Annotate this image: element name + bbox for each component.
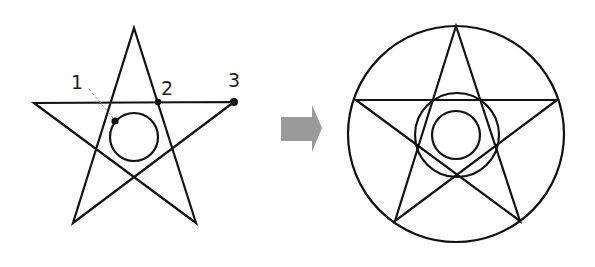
right-arrow-icon (281, 105, 322, 152)
point-3-dot (230, 98, 238, 106)
right-middle-circle (415, 93, 499, 177)
point-2-dot (155, 99, 161, 105)
right-inner-circle (432, 111, 480, 159)
right-figure (348, 26, 564, 242)
right-outer-circle (348, 26, 564, 242)
point-1-label: 1 (71, 71, 83, 93)
diagram-canvas: 1 2 3 (0, 0, 595, 267)
point-2-label: 2 (161, 77, 173, 99)
left-pentagram (34, 28, 234, 223)
left-figure (34, 28, 234, 223)
point-1-dot (111, 117, 118, 124)
right-pentagram (356, 26, 557, 221)
point-3-label: 3 (228, 69, 240, 91)
